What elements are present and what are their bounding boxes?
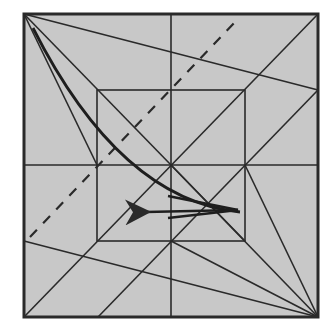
crease-pattern-diagram xyxy=(0,0,336,332)
crease-lines xyxy=(24,14,318,317)
